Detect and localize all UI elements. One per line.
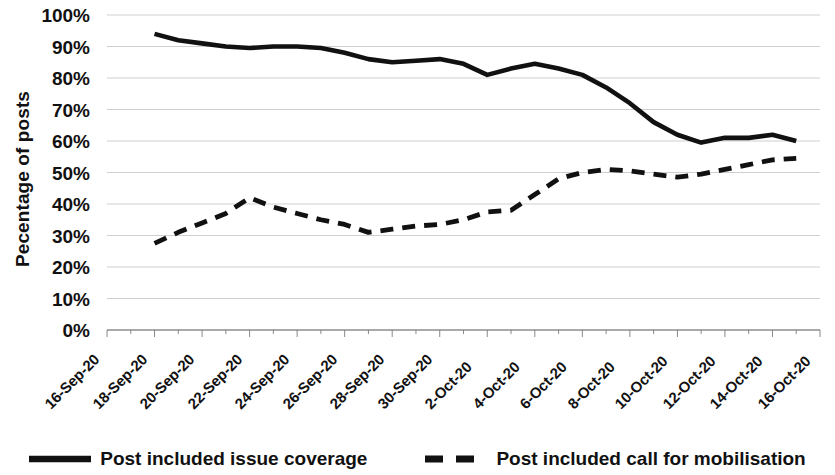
series-line-2: [155, 158, 797, 243]
legend-dashed-line-icon: [425, 451, 487, 467]
series-line-1: [155, 34, 797, 143]
legend-entry-1: Post included issue coverage: [29, 448, 367, 470]
chart-legend: Post included issue coveragePost include…: [0, 443, 835, 475]
legend-label: Post included call for mobilisation: [496, 448, 805, 470]
data-series-layer: [155, 34, 797, 243]
x-axis-tickmarks: [107, 330, 820, 337]
legend-solid-line-icon: [29, 451, 91, 467]
legend-entry-2: Post included call for mobilisation: [425, 448, 805, 470]
line-chart: Pecentage of posts 100%90%80%70%60%50%40…: [0, 0, 835, 475]
legend-label: Post included issue coverage: [100, 448, 367, 470]
